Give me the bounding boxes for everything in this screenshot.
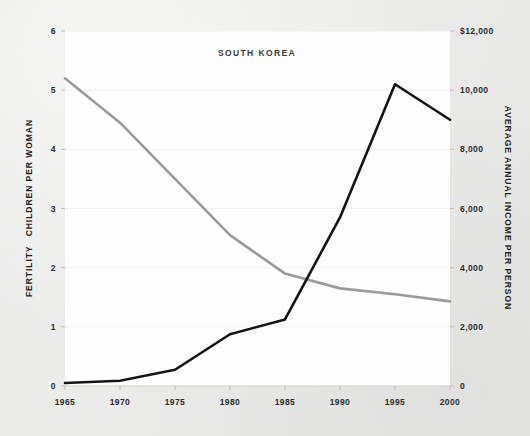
x-axis-ticks: 19651970197519801985199019952000 [55,386,461,407]
right-tick-label: 6,000 [460,204,483,214]
left-axis-title-emphasis: FERTILITY [24,246,34,297]
left-tick-label: 5 [51,85,56,95]
x-tick-label: 1975 [165,397,186,407]
chart-figure: 0123456 02,0004,0006,0008,00010,000$12,0… [0,0,530,436]
left-tick-label: 3 [51,204,56,214]
right-tick-label: 2,000 [460,322,483,332]
left-axis-title-rest: CHILDREN PER WOMAN [24,119,34,236]
left-tick-label: 2 [51,263,56,273]
x-tick-label: 1970 [110,397,131,407]
right-axis-ticks: 02,0004,0006,0008,00010,000$12,000 [450,26,494,391]
x-tick-label: 1980 [220,397,241,407]
x-tick-label: 1990 [330,397,351,407]
left-axis-title: FERTILITY CHILDREN PER WOMAN [24,119,34,297]
right-tick-label: 8,000 [460,144,483,154]
left-tick-label: 1 [51,322,56,332]
right-tick-label: 4,000 [460,263,483,273]
left-tick-label: 0 [51,381,56,391]
x-tick-label: 1965 [55,397,76,407]
svg-text:AVERAGE ANNUAL INCOME PER PER: AVERAGE ANNUAL INCOME PER PERSON [503,106,513,310]
x-tick-label: 2000 [440,397,461,407]
x-tick-label: 1995 [385,397,406,407]
right-tick-label: 10,000 [460,85,488,95]
chart-title: SOUTH KOREA [218,48,296,58]
right-tick-label: $12,000 [460,26,494,36]
svg-text:FERTILITY CHILDREN PER W: FERTILITY CHILDREN PER WOMAN [24,119,34,297]
x-tick-label: 1985 [275,397,296,407]
left-tick-label: 6 [51,26,56,36]
left-axis-ticks: 0123456 [51,26,65,391]
right-tick-label: 0 [460,381,465,391]
left-tick-label: 4 [51,144,56,154]
right-axis-title: AVERAGE ANNUAL INCOME PER PERSON [503,106,513,310]
